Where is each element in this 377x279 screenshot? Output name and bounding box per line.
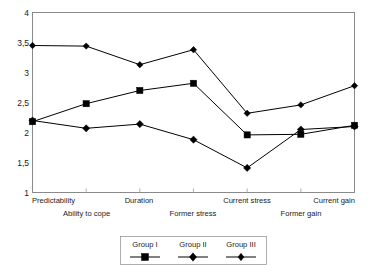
x-tick-label-current-gain: Current gain [313,196,355,205]
y-tick-label: 4 [24,8,29,18]
y-tick-label: 1,5 [17,158,29,168]
x-tick-label-predictability: Predictability [32,196,75,205]
y-tick-label: 2,5 [17,98,29,108]
y-tick-label: 3 [24,68,29,78]
y-tick-label: 3,5 [17,38,29,48]
legend-label-group-i: Group I [132,240,157,249]
legend-label-group-iii: Group III [226,240,256,249]
data-point-square [190,80,196,86]
x-tick-label-former-stress: Former stress [170,209,217,218]
y-tick-label: 1 [24,188,29,198]
chart-background [0,0,377,279]
y-tick-label: 2 [24,128,29,138]
data-point-square [137,87,143,93]
x-tick-label-former-gain: Former gain [281,209,322,218]
data-point-square [244,132,250,138]
legend-label-group-ii: Group II [179,240,206,249]
x-tick-label-current-stress: Current stress [223,196,271,205]
square-marker-icon [142,254,149,261]
x-tick-label-ability-to-cope: Ability to cope [63,209,110,218]
line-chart: 4 3,5 3 2,5 2 1,5 1 Predictability Abili… [0,0,377,279]
x-tick-label-duration: Duration [125,196,154,205]
data-point-square [83,101,89,107]
chart-canvas: 4 3,5 3 2,5 2 1,5 1 Predictability Abili… [0,0,377,279]
